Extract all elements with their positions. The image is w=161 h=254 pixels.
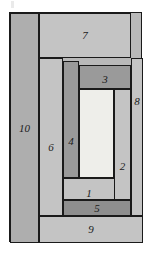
diagram-screenshot: 10768943251	[0, 0, 161, 254]
region-label-2: 2	[120, 161, 126, 172]
region-8: 8	[131, 58, 143, 216]
region-5: 5	[63, 200, 131, 216]
region-label-1: 1	[86, 188, 92, 199]
region-7: 7	[39, 13, 131, 58]
region-label-3: 3	[102, 74, 108, 85]
region-label-9: 9	[88, 224, 94, 235]
region-1: 1	[63, 178, 115, 200]
region-4: 4	[63, 61, 79, 178]
region-6: 6	[39, 58, 63, 216]
region-label-7: 7	[82, 30, 88, 41]
region-2: 2	[114, 89, 131, 200]
region-center-blank	[79, 89, 114, 178]
partition-diagram: 10768943251	[9, 12, 142, 242]
region-label-4: 4	[68, 136, 74, 147]
region-label-5: 5	[94, 203, 100, 214]
region-label-10: 10	[19, 123, 30, 134]
region-label-6: 6	[48, 142, 54, 153]
region-3: 3	[79, 65, 131, 89]
region-9: 9	[39, 216, 143, 243]
scan-artifact	[11, 1, 14, 8]
region-label-8: 8	[134, 96, 140, 107]
region-10: 10	[10, 13, 39, 243]
